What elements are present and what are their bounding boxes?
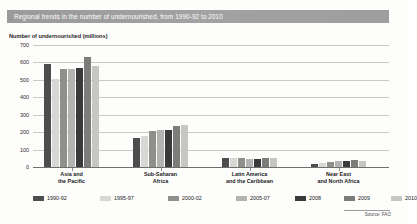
bar [84, 57, 92, 167]
bar [52, 79, 60, 167]
chart-title-bar: Regional trends in the number of underno… [7, 10, 389, 23]
x-axis-category-label-line: the Pacific [28, 178, 116, 185]
bar [157, 130, 165, 167]
bar [222, 158, 230, 167]
y-axis-tick: 100 [7, 147, 29, 153]
bar [238, 158, 246, 167]
legend-label: 2000-02 [182, 195, 202, 202]
bar [165, 130, 173, 167]
bar [319, 163, 327, 167]
bar [327, 162, 335, 167]
bar-group [222, 45, 278, 167]
bar-group [133, 45, 189, 167]
y-axis-tick: 500 [7, 77, 29, 83]
x-axis-category-label-line: and North Africa [295, 178, 383, 185]
plot-area: Asia andthe PacificSub-SaharanAfricaLati… [33, 45, 389, 167]
bar [68, 69, 76, 167]
bar-group [311, 45, 367, 167]
bar [270, 158, 278, 167]
bar [92, 66, 100, 167]
legend-label: 2009 [358, 195, 370, 202]
bar [181, 125, 189, 167]
bar [60, 69, 68, 167]
bar [311, 164, 319, 167]
legend-swatch-icon [344, 196, 355, 201]
bar [76, 68, 84, 167]
y-axis-tick: 300 [7, 112, 29, 118]
bar [351, 160, 359, 167]
bar-group [44, 45, 100, 167]
source-note: Source: FAO [365, 212, 391, 217]
x-axis-category-label-line: Asia and [28, 171, 116, 178]
x-axis-line [33, 167, 389, 168]
bar [262, 158, 270, 167]
x-axis-category-label-line: Latin America [206, 171, 294, 178]
legend-swatch-icon [33, 196, 44, 201]
legend-swatch-icon [236, 196, 247, 201]
legend-swatch-icon [295, 196, 306, 201]
y-axis-tick-labels: 0100200300400500600700 [5, 45, 29, 167]
bar [246, 159, 254, 167]
legend-label: 2005-07 [250, 195, 270, 202]
bar [230, 158, 238, 167]
bar [173, 126, 181, 167]
y-axis-tick: 700 [7, 42, 29, 48]
source-divider [344, 210, 390, 211]
legend-label: 1995-97 [114, 195, 134, 202]
legend-swatch-icon [391, 196, 402, 201]
y-axis-tick: 600 [7, 59, 29, 65]
bar [254, 159, 262, 167]
y-axis-tick: 0 [7, 164, 29, 170]
x-axis-category-label-line: Sub-Saharan [117, 171, 205, 178]
x-axis-category-label: Latin Americaand the Caribbean [206, 171, 294, 184]
y-axis-tick: 200 [7, 129, 29, 135]
legend-label: 1990-92 [47, 195, 67, 202]
bar [141, 136, 149, 167]
legend-swatch-icon [100, 196, 111, 201]
x-axis-category-label-line: and the Caribbean [206, 178, 294, 185]
legend-swatch-icon [168, 196, 179, 201]
bar [359, 161, 367, 167]
bar [133, 138, 141, 167]
bar [44, 64, 52, 167]
bar [149, 131, 157, 167]
bar [343, 161, 351, 167]
x-axis-category-label-line: Near East [295, 171, 383, 178]
x-axis-category-label: Asia andthe Pacific [28, 171, 116, 184]
y-axis-label: Number of undernourished (millions) [9, 33, 108, 39]
page-title: Regional trends in the number of underno… [14, 12, 223, 21]
y-axis-tick: 400 [7, 94, 29, 100]
chart-legend: 1990-921995-972000-022005-07200820092010 [33, 195, 393, 204]
x-axis-category-label: Near Eastand North Africa [295, 171, 383, 184]
x-axis-category-label: Sub-SaharanAfrica [117, 171, 205, 184]
bar [335, 161, 343, 167]
legend-label: 2008 [309, 195, 321, 202]
legend-label: 2010 [405, 195, 417, 202]
x-axis-category-label-line: Africa [117, 178, 205, 185]
